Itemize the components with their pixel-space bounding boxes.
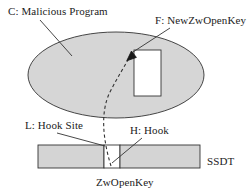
label-zwopenkey: ZwOpenKey <box>96 177 154 188</box>
label-ssdt: SSDT <box>207 156 234 167</box>
ssdt-bar-left-segment <box>38 145 104 168</box>
new-zwopenkey-rectangle <box>134 50 161 96</box>
leader-line-hook-site <box>57 133 105 146</box>
label-hook-site: L: Hook Site <box>25 120 83 131</box>
label-malicious-program: C: Malicious Program <box>8 6 108 17</box>
malicious-program-ellipse <box>28 32 204 118</box>
diagram-canvas: C: Malicious Program F: NewZwOpenKey L: … <box>0 0 252 193</box>
label-new-zwopenkey: F: NewZwOpenKey <box>155 15 246 26</box>
label-hook: H: Hook <box>130 125 169 136</box>
ssdt-bar-right-segment <box>120 145 200 168</box>
